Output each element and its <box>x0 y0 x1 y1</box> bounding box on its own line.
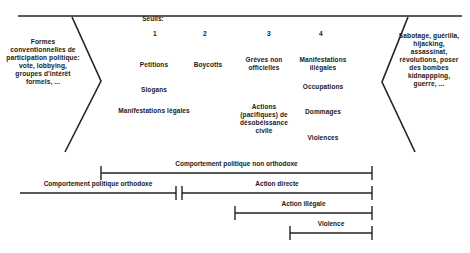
span-label-violence: Violence <box>290 220 372 227</box>
threshold-number-3: 3 <box>254 30 284 38</box>
span-line-non-orthodoxe <box>101 166 372 180</box>
thresholds-header-label: Seuils: <box>123 15 183 23</box>
span-line-violence <box>290 226 372 240</box>
span-line-action-directe <box>182 186 372 200</box>
span-label-action-directe: Action directe <box>182 180 372 187</box>
span-line-orthodoxe <box>20 186 176 200</box>
column-1-item-slogans: Slogans <box>118 86 190 94</box>
political-participation-diagram: Formes conventionnelles de participation… <box>0 0 470 253</box>
column-4-item-violences: Violences <box>290 134 356 142</box>
column-4-item-occupations: Occupations <box>290 83 356 91</box>
span-label-orthodoxe: Comportement politique orthodoxe <box>20 180 176 187</box>
right-panel-extreme-forms: Sabotage, guérilla, hijacking, assassina… <box>396 32 462 88</box>
column-4-item-manifestations-illegales: Manifestations illégales <box>290 56 356 72</box>
threshold-number-1: 1 <box>140 30 170 38</box>
column-3-item-greves-non-officielles: Grèves non officielles <box>234 56 294 72</box>
span-label-action-illegale: Action illégale <box>235 200 372 207</box>
column-4-item-dommages: Dommages <box>290 108 356 116</box>
column-3-item-desobeissance-civile: Actions (pacifiques) de désobéissance ci… <box>234 103 294 135</box>
threshold-number-4: 4 <box>306 30 336 38</box>
span-label-non-orthodoxe: Comportement politique non orthodoxe <box>101 160 372 167</box>
column-2-item-boycotts: Boycotts <box>177 61 239 69</box>
span-line-action-illegale <box>235 206 372 220</box>
threshold-number-2: 2 <box>190 30 220 38</box>
column-1-item-manifestations-legales: Manifestations légales <box>118 107 190 115</box>
left-panel-conventional-forms: Formes conventionnelles de participation… <box>6 38 80 86</box>
